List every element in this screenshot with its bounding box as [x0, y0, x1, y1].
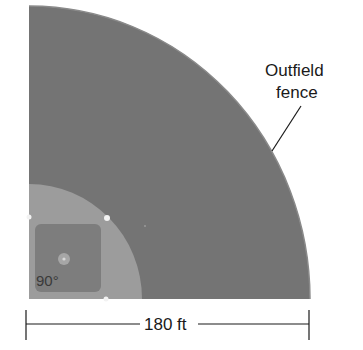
field-diagram: 90° Outfield fence 180 ft [0, 0, 363, 350]
fence-label-line1: Outfield [265, 61, 324, 80]
pitchers-rubber [62, 257, 65, 260]
second-base [104, 215, 110, 221]
fence-leader-line [272, 106, 301, 151]
first-base [104, 297, 109, 302]
fence-label-line2: fence [276, 83, 318, 102]
dimension-label: 180 ft [144, 315, 187, 334]
angle-label: 90° [36, 272, 59, 289]
field-diagram-svg: 90° Outfield fence 180 ft [0, 0, 363, 350]
outfield-marker-dot [144, 225, 146, 227]
third-base [27, 215, 32, 220]
